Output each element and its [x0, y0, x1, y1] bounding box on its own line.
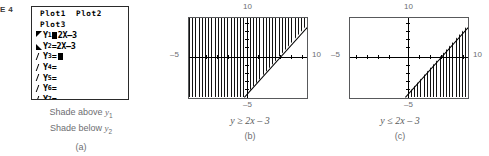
- caption-b-rhs: 2x – 3: [245, 115, 269, 126]
- graph-b-y-tick: [245, 73, 249, 74]
- caption-b: y ≥ 2x – 3 (b): [190, 115, 310, 142]
- plot-slash-icon[interactable]: [36, 52, 43, 61]
- plot-tab-2[interactable]: Plot2: [76, 9, 102, 18]
- calculator-screen-panel: Plot1 Plot2 Plot3 Y1 2X–3 Y2 = 2X–3 Y3 =: [31, 6, 129, 100]
- graph-c-x-tick: [356, 55, 357, 59]
- graph-c-x-tick: [452, 55, 453, 59]
- caption-b-lhs: y: [230, 115, 234, 126]
- caption-c-rhs: 2x – 3: [395, 115, 419, 126]
- plot-tab-3[interactable]: Plot3: [40, 20, 66, 29]
- figure-label: RE 4: [0, 5, 13, 14]
- equals-sign-y5: =: [52, 73, 57, 84]
- graph-b-bottom-label: –5: [243, 100, 252, 109]
- plot-slash-icon[interactable]: [36, 63, 43, 72]
- function-row-y7[interactable]: Y7 =: [36, 94, 128, 100]
- graph-b-right-label: 10: [312, 50, 321, 59]
- caption-c-relation: ≤: [387, 115, 393, 126]
- caption-a-line1-text: Shade above: [49, 107, 105, 117]
- plot-slash-icon[interactable]: [36, 73, 43, 82]
- caption-b-equation: y ≥ 2x – 3: [190, 115, 310, 128]
- graph-b: [188, 17, 308, 99]
- graph-b-x-tick: [291, 55, 292, 59]
- function-expression-y1[interactable]: 2X–3: [58, 30, 77, 41]
- function-row-y4[interactable]: Y4 =: [36, 62, 128, 73]
- graph-c-top-label: 10: [404, 2, 413, 11]
- graph-c-x-tick: [378, 55, 379, 59]
- graph-c-x-tick: [367, 55, 368, 59]
- function-row-y2[interactable]: Y2 = 2X–3: [36, 41, 128, 52]
- caption-c-lhs: y: [380, 115, 384, 126]
- equals-sign-y3: =: [52, 51, 57, 62]
- caption-a-line2-text: Shade below: [50, 123, 105, 133]
- graph-b-x-tick: [195, 55, 196, 59]
- graph-b-left-label: –5: [170, 50, 179, 59]
- graph-b-x-tick: [206, 55, 207, 59]
- caption-b-letter: (b): [190, 130, 310, 143]
- graph-b-y-tick: [245, 81, 249, 82]
- graph-b-y-tick: [245, 89, 249, 90]
- graph-c-y-tick: [406, 81, 410, 82]
- graph-c-y-tick: [406, 23, 410, 24]
- graph-b-y-tick: [245, 47, 249, 48]
- graph-b-top-label: 10: [243, 2, 252, 11]
- plot-tabs-row: Plot1 Plot2 Plot3: [36, 9, 128, 30]
- graph-c-left-label: –5: [331, 50, 340, 59]
- graph-b-y-tick: [245, 31, 249, 32]
- graph-b-y-tick: [245, 39, 249, 40]
- caption-c-letter: (c): [340, 130, 460, 143]
- graph-c-y-tick: [406, 39, 410, 40]
- graph-c-right-label: 10: [473, 50, 482, 59]
- text-cursor: [58, 53, 64, 60]
- graph-c-bottom-label: –5: [404, 100, 413, 109]
- graph-b-x-tick: [269, 55, 270, 59]
- caption-c-equation: y ≤ 2x – 3: [340, 115, 460, 128]
- plot-tab-1[interactable]: Plot1: [40, 9, 66, 18]
- plot-slash-icon[interactable]: [36, 95, 43, 100]
- graph-c-y-tick: [406, 89, 410, 90]
- caption-a-letter: (a): [36, 141, 126, 154]
- graph-b-x-tick: [217, 55, 218, 59]
- function-row-y1[interactable]: Y1 2X–3: [36, 30, 128, 41]
- graph-b-x-tick: [302, 55, 303, 59]
- caption-a-line1-sub: 1: [109, 112, 113, 119]
- caption-a: Shade above y1 Shade below y2 (a): [36, 106, 126, 153]
- graph-c-y-tick: [406, 47, 410, 48]
- graph-c-x-tick: [419, 55, 420, 59]
- shade-above-icon[interactable]: [36, 31, 43, 40]
- graph-c-inner: [350, 18, 468, 98]
- graph-c-y-axis: [408, 18, 409, 98]
- function-index-y1: 1: [48, 30, 52, 41]
- graph-b-x-tick: [258, 55, 259, 59]
- equals-sign-y4: =: [52, 62, 57, 73]
- equals-sign-y7: =: [52, 94, 57, 100]
- function-expression-y2[interactable]: 2X–3: [57, 41, 76, 52]
- graph-b-y-tick: [245, 23, 249, 24]
- equals-highlight-box-y1: [52, 32, 57, 39]
- function-row-y3[interactable]: Y3 =: [36, 51, 128, 62]
- calculator-screen[interactable]: Plot1 Plot2 Plot3 Y1 2X–3 Y2 = 2X–3 Y3 =: [31, 6, 129, 100]
- graph-c-x-tick: [430, 55, 431, 59]
- graph-c-y-tick: [406, 31, 410, 32]
- equals-sign-y6: =: [52, 83, 57, 94]
- plot-slash-icon[interactable]: [36, 84, 43, 93]
- graph-c-x-tick: [463, 55, 464, 59]
- caption-a-line2-sub: 2: [108, 128, 112, 135]
- graph-b-inner: [189, 18, 307, 98]
- graph-c: [349, 17, 469, 99]
- graph-c-x-tick: [389, 55, 390, 59]
- caption-a-line1: Shade above y1: [36, 106, 126, 122]
- caption-c: y ≤ 2x – 3 (c): [340, 115, 460, 142]
- function-row-y6[interactable]: Y6 =: [36, 83, 128, 94]
- caption-b-relation: ≥: [237, 115, 243, 126]
- graph-c-y-tick: [406, 65, 410, 66]
- graph-b-x-tick: [228, 55, 229, 59]
- graph-b-y-tick: [245, 65, 249, 66]
- graph-c-y-tick: [406, 73, 410, 74]
- graph-b-y-axis: [247, 18, 248, 98]
- shade-below-icon[interactable]: [36, 42, 43, 51]
- function-row-y5[interactable]: Y5 =: [36, 73, 128, 84]
- caption-a-line2: Shade below y2: [36, 122, 126, 138]
